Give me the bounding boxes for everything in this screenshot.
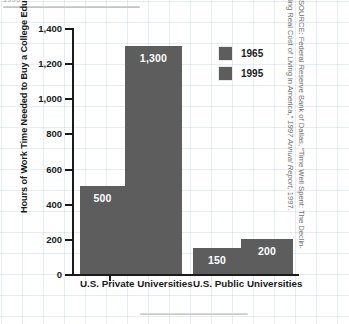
y-tick-mark bbox=[65, 169, 72, 171]
legend-item-1995: 1995 bbox=[218, 66, 263, 81]
legend-label-1995: 1995 bbox=[241, 68, 263, 79]
source-note-line-2-suffix: 1997. bbox=[287, 190, 296, 211]
bar-u-s-public-universities-1965: 150 bbox=[193, 248, 241, 274]
y-tick-mark bbox=[65, 274, 72, 276]
y-tick-mark bbox=[65, 98, 72, 100]
bar-value-label: 1,300 bbox=[125, 52, 182, 64]
y-axis-title: Hours of Work Time Needed to Buy a Colle… bbox=[19, 13, 29, 213]
bar-chart: Hours of Work Time Needed to Buy a Colle… bbox=[0, 12, 305, 307]
y-tick-label: 1,400 bbox=[38, 23, 62, 34]
y-tick-mark bbox=[65, 63, 72, 65]
y-tick-label: 1,200 bbox=[38, 58, 62, 69]
y-tick-mark bbox=[65, 204, 72, 206]
source-note-line-2: ing Real Cost of Living in America,” 199… bbox=[285, 0, 296, 324]
top-heading-fragment: 1995 bbox=[3, 0, 21, 3]
y-tick-mark bbox=[65, 239, 72, 241]
bottom-divider-rule bbox=[140, 313, 248, 315]
source-note-line-2-prefix: ing Real Cost of Living in America,” bbox=[287, 0, 296, 120]
y-tick-label: 400 bbox=[46, 198, 62, 209]
x-axis-label-private: U.S. Private Universities bbox=[80, 278, 182, 289]
chart-page: 1995 Hours of Work Time Needed to Buy a … bbox=[0, 0, 349, 324]
source-note-publication: 1997 Annual Report, bbox=[287, 120, 296, 189]
legend-label-1965: 1965 bbox=[241, 48, 263, 59]
y-tick-label: 0 bbox=[57, 269, 62, 280]
bar-u-s-private-universities-1965: 500 bbox=[80, 186, 125, 274]
y-tick-label: 800 bbox=[46, 128, 62, 139]
y-tick-label: 1,000 bbox=[38, 93, 62, 104]
x-axis-line bbox=[72, 274, 299, 276]
bar-u-s-private-universities-1995: 1,300 bbox=[125, 46, 182, 274]
legend: 1965 1995 bbox=[218, 46, 263, 86]
legend-swatch-icon-1995 bbox=[218, 66, 233, 81]
y-tick-label: 200 bbox=[46, 233, 62, 244]
legend-swatch-icon-1965 bbox=[218, 46, 233, 61]
y-tick-mark bbox=[65, 133, 72, 135]
source-note-line-1: SOURCE: Federal Reserve Bank of Dallas, … bbox=[296, 0, 307, 324]
y-tick-mark bbox=[65, 28, 72, 30]
bar-value-label: 500 bbox=[80, 192, 125, 204]
y-tick-label: 600 bbox=[46, 163, 62, 174]
legend-item-1965: 1965 bbox=[218, 46, 263, 61]
bar-value-label: 150 bbox=[193, 254, 241, 266]
source-note: SOURCE: Federal Reserve Bank of Dallas, … bbox=[266, 0, 306, 324]
